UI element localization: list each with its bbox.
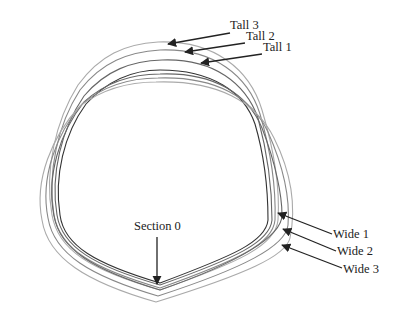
cross-section-diagram: Tall 3 Tall 2 Tall 1 Wide 1 Wide 2 Wide … bbox=[0, 0, 402, 320]
wide-3-label: Wide 3 bbox=[343, 262, 379, 276]
tall-1-label: Tall 1 bbox=[263, 40, 292, 54]
section-0-annotation: Section 0 bbox=[134, 219, 181, 284]
curve-section-0 bbox=[58, 70, 268, 283]
tall-1-annotation: Tall 1 bbox=[201, 40, 292, 63]
tall-2-arrow bbox=[185, 43, 245, 52]
section-0-label: Section 0 bbox=[134, 219, 181, 233]
wide-2-label: Wide 2 bbox=[337, 244, 373, 258]
curve-tall-3 bbox=[50, 42, 279, 290]
wide-3-arrow bbox=[282, 245, 342, 268]
curve-tall-1 bbox=[55, 60, 272, 285]
tall-3-arrow bbox=[168, 33, 230, 44]
wide-1-label: Wide 1 bbox=[333, 227, 369, 241]
